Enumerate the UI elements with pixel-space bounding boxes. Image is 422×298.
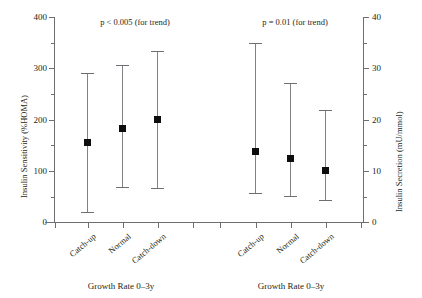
- figure-root: p < 0.005 (for trend) 400 300 200 100 0 …: [0, 0, 422, 298]
- right-y-ticklabel-30: 30: [372, 64, 396, 73]
- left-x-tick-end: [193, 223, 194, 228]
- right-x-tick-start: [220, 223, 221, 228]
- errorbar-stem: [325, 110, 326, 200]
- left-y-minortick-350: [51, 43, 55, 44]
- right-y-minortick-5: [363, 197, 367, 198]
- left-panel: p < 0.005 (for trend) 400 300 200 100 0 …: [0, 0, 211, 298]
- errorbar-cap-upper: [116, 65, 129, 66]
- left-y-ticklabel-400: 400: [23, 13, 47, 22]
- data-point-marker: [252, 148, 259, 155]
- errorbar-cap-lower: [151, 188, 164, 189]
- right-y-tick-30: [363, 68, 369, 69]
- errorbar-stem: [290, 83, 291, 196]
- right-y-ticklabel-10: 10: [372, 167, 396, 176]
- errorbar-cap-lower: [116, 187, 129, 188]
- errorbar-cap-lower: [284, 196, 297, 197]
- left-x-tick-catch-down: [158, 223, 159, 228]
- right-x-tick-end: [361, 223, 362, 228]
- right-y-minortick-25: [363, 94, 367, 95]
- left-panel-p-annotation: p < 0.005 (for trend): [72, 17, 198, 27]
- right-y-axis-title: Insulin Secretion (mU/mmol): [395, 111, 404, 212]
- errorbar-cap-upper: [249, 43, 262, 44]
- right-y-minortick-15: [363, 145, 367, 146]
- right-panel: p = 0.01 (for trend) 40 30 20 10 0 Insul…: [211, 0, 422, 298]
- data-point-marker: [154, 116, 161, 123]
- right-x-axis-title: Growth Rate 0–3y: [216, 281, 366, 291]
- errorbar-stem: [255, 43, 256, 193]
- left-x-axis-line: [45, 222, 211, 223]
- left-x-tick-catch-up: [88, 223, 89, 228]
- right-y-ticklabel-20: 20: [372, 116, 396, 125]
- left-y-minortick-250: [51, 94, 55, 95]
- left-y-tick-200: [49, 120, 55, 121]
- left-y-ticklabel-0: 0: [23, 218, 47, 227]
- right-x-tick-normal: [291, 223, 292, 228]
- left-y-minortick-150: [51, 145, 55, 146]
- errorbar-cap-upper: [81, 73, 94, 74]
- left-x-tick-start: [55, 223, 56, 228]
- errorbar-cap-lower: [319, 200, 332, 201]
- left-x-axis-title: Growth Rate 0–3y: [46, 281, 196, 291]
- data-point-marker: [322, 167, 329, 174]
- right-y-tick-20: [363, 120, 369, 121]
- data-point-marker: [287, 155, 294, 162]
- right-y-tick-40: [363, 17, 369, 18]
- right-y-minortick-35: [363, 43, 367, 44]
- right-y-ticklabel-40: 40: [372, 13, 396, 22]
- left-x-tick-normal: [123, 223, 124, 228]
- errorbar-cap-lower: [249, 193, 262, 194]
- left-y-ticklabel-300: 300: [23, 64, 47, 73]
- right-panel-p-annotation: p = 0.01 (for trend): [232, 17, 358, 27]
- data-point-marker: [119, 125, 126, 132]
- left-y-minortick-50: [51, 197, 55, 198]
- right-x-axis-line: [211, 222, 369, 223]
- errorbar-cap-upper: [151, 51, 164, 52]
- left-y-axis-title: Insulin Sensitivity (%HOMA): [20, 95, 29, 198]
- right-y-ticklabel-0: 0: [372, 218, 396, 227]
- errorbar-cap-upper: [319, 110, 332, 111]
- errorbar-cap-upper: [284, 83, 297, 84]
- left-y-tick-300: [49, 68, 55, 69]
- right-x-tick-catch-up: [256, 223, 257, 228]
- left-y-tick-100: [49, 171, 55, 172]
- right-x-tick-catch-down: [326, 223, 327, 228]
- left-y-tick-400: [49, 17, 55, 18]
- data-point-marker: [84, 139, 91, 146]
- right-y-tick-10: [363, 171, 369, 172]
- errorbar-cap-lower: [81, 212, 94, 213]
